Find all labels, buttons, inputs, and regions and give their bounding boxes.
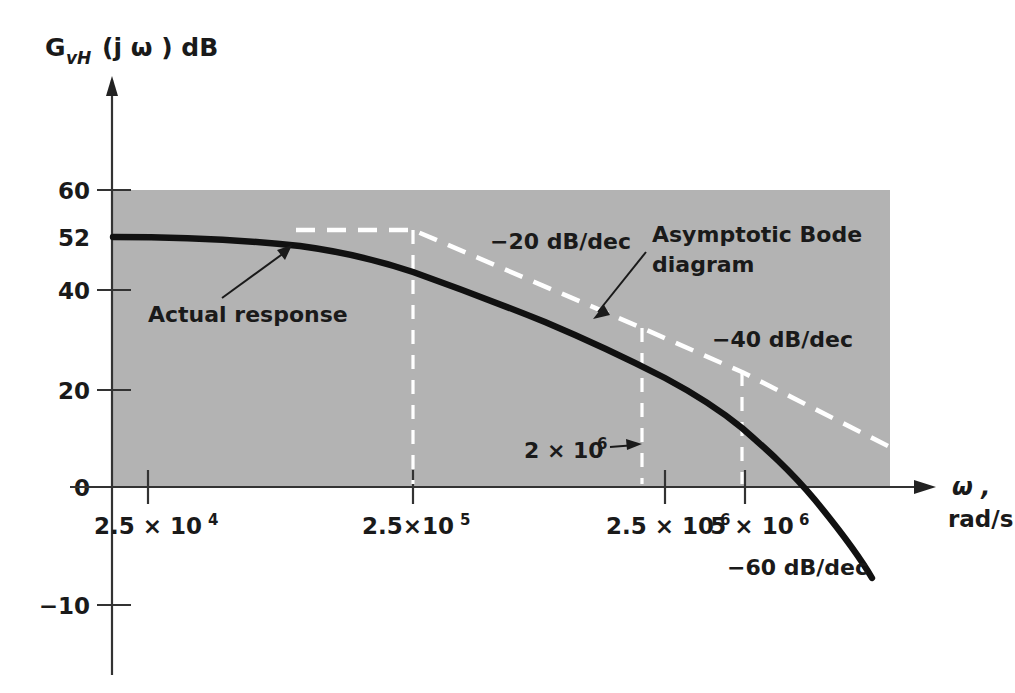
x-tick-label-25e4-exponent: 4 <box>208 511 218 529</box>
x-tick-label-25e5-exponent: 5 <box>460 511 470 529</box>
annotation-breakpoint-mantissa: 2 × 10 <box>524 438 604 463</box>
annotation-actual-response-label: Actual response <box>148 302 348 327</box>
y-axis-title-subscript: vH <box>66 48 91 68</box>
annotation-slope-60: −60 dB/dec <box>727 555 868 580</box>
y-axis-title-argument: (j ω ) dB <box>102 33 218 62</box>
y-tick-label-60: 60 <box>58 178 90 204</box>
x-tick-label-25e6-mantissa: 2.5 × 10 <box>606 513 714 539</box>
x-tick-label-5e6-exponent: 6 <box>799 511 809 529</box>
y-tick-label-40: 40 <box>58 278 90 304</box>
y-tick-label-52: 52 <box>58 225 90 251</box>
annotation-breakpoint-exponent: 6 <box>597 435 607 453</box>
annotation-slope-40: −40 dB/dec <box>712 327 853 352</box>
x-tick-label-25e4-mantissa: 2.5 × 10 <box>94 513 202 539</box>
y-tick-label-20: 20 <box>58 378 90 404</box>
bode-plot-svg: 60 52 40 20 0 −10 G vH (j ω ) dB 2.5 × 1… <box>0 0 1015 693</box>
x-tick-label-5e6-mantissa: 5 × 10 <box>710 513 793 539</box>
x-tick-label-25e4: 2.5 × 10 4 <box>94 511 218 539</box>
bode-plot-figure: 60 52 40 20 0 −10 G vH (j ω ) dB 2.5 × 1… <box>0 0 1015 693</box>
y-tick-label-minus10: −10 <box>39 593 90 619</box>
y-axis-title-main: G <box>45 33 66 62</box>
annotation-slope-20: −20 dB/dec <box>490 229 631 254</box>
annotation-asymptotic-line2: diagram <box>652 252 755 277</box>
x-axis-title-omega: ω , <box>952 473 990 501</box>
x-tick-label-25e5-mantissa: 2.5×10 <box>362 513 454 539</box>
x-axis-title-units: rad/s <box>948 506 1013 532</box>
annotation-asymptotic-line1: Asymptotic Bode <box>652 222 862 247</box>
